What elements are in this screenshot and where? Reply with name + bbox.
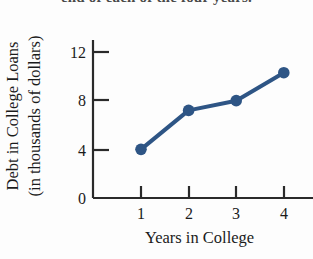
y-tick-label-4: 4 [78,142,86,159]
chart-figure: end of each of the four years. Debt in C… [0,0,313,259]
data-point-3 [230,95,242,107]
x-tick-label-3: 3 [232,205,240,222]
data-point-1 [135,144,147,156]
y-axis-tick-labels: 12 8 4 0 [70,44,86,207]
data-series-line [141,73,284,150]
y-tick-label-0: 0 [78,190,86,207]
y-tick-label-8: 8 [78,92,86,109]
data-series-markers [135,67,289,155]
x-axis-ticks [141,186,284,198]
x-tick-label-1: 1 [137,205,145,222]
data-point-4 [278,67,290,79]
y-tick-label-12: 12 [70,44,86,61]
plot-area: 12 8 4 0 1 2 3 4 [0,0,313,259]
y-axis-ticks [93,52,109,150]
x-tick-label-4: 4 [280,205,288,222]
x-tick-label-2: 2 [185,205,193,222]
data-point-2 [183,105,195,117]
x-axis-title: Years in College [86,228,313,248]
x-axis-tick-labels: 1 2 3 4 [137,205,288,222]
